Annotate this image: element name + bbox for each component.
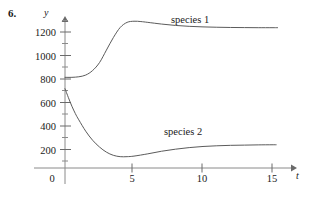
y-tick-label: 600 <box>40 98 56 109</box>
y-tick-label: 200 <box>40 145 56 156</box>
species-1-label: species 1 <box>171 14 209 25</box>
series-line-species-1 <box>65 21 278 77</box>
problem-number: 6. <box>8 7 16 19</box>
y-axis-arrow-icon <box>62 16 69 22</box>
axes-group <box>34 16 297 184</box>
figure-container: 6. y t species 1 species 2 <box>0 0 312 219</box>
x-tick-label: 0 <box>49 173 54 184</box>
x-tick-labels: 0 5 10 15 <box>49 173 277 184</box>
y-axis-label: y <box>44 7 48 18</box>
y-tick-label: 800 <box>40 74 56 85</box>
y-tick-label: 1200 <box>35 27 56 38</box>
series-line-species-2 <box>65 89 276 157</box>
x-tick-label: 15 <box>267 173 278 184</box>
y-tick-label: 400 <box>40 121 56 132</box>
plot-canvas: 1200 1000 800 600 400 200 0 5 10 15 <box>0 0 312 219</box>
species-2-label: species 2 <box>164 126 202 137</box>
x-axis-label: t <box>296 170 299 181</box>
x-tick-label: 10 <box>197 173 208 184</box>
y-tick-label: 1000 <box>35 51 56 62</box>
y-tick-labels: 1200 1000 800 600 400 200 <box>35 27 56 156</box>
x-tick-label: 5 <box>129 173 134 184</box>
